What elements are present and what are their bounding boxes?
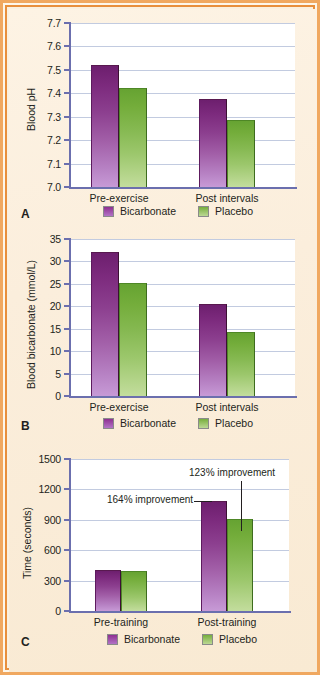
legend-label-bicarbonate: Bicarbonate	[124, 633, 180, 645]
legend-item-bicarbonate[interactable]: Bicarbonate	[103, 205, 176, 217]
y-tick-label: 5	[37, 368, 61, 380]
y-axis-a	[69, 22, 71, 189]
bar-bicarbonate-pre-training[interactable]	[95, 570, 121, 611]
bar-placebo-pre-exercise[interactable]	[119, 283, 147, 396]
y-tick-label: 0	[29, 605, 61, 617]
y-tick	[64, 458, 69, 460]
y-tick-label: 0	[37, 390, 61, 402]
y-tick	[64, 328, 69, 330]
y-tick-label: 7.4	[35, 87, 61, 99]
legend-a: Bicarbonate Placebo	[103, 205, 253, 217]
y-tick-label: 900	[29, 514, 61, 526]
y-tick-label: 600	[29, 544, 61, 556]
bar-placebo-pre-training[interactable]	[121, 571, 147, 611]
legend-label-placebo: Placebo	[215, 205, 253, 217]
bar-placebo-post-intervals[interactable]	[227, 332, 255, 396]
y-tick-label: 7.0	[35, 181, 61, 193]
legend-label-bicarbonate: Bicarbonate	[120, 205, 176, 217]
chart-panel-c: 1500 1200 900 600 300 0 Time (seconds) 1…	[3, 445, 320, 673]
y-tick-label: 20	[37, 300, 61, 312]
gridline	[71, 489, 289, 490]
legend-item-placebo[interactable]: Placebo	[198, 205, 253, 217]
legend-item-placebo[interactable]: Placebo	[198, 417, 253, 429]
legend-swatch-icon-bicarbonate	[103, 206, 114, 217]
bar-bicarbonate-post-intervals[interactable]	[199, 99, 227, 187]
legend-swatch-icon-placebo	[198, 418, 209, 429]
legend-label-placebo: Placebo	[215, 417, 253, 429]
gridline	[71, 23, 295, 24]
gridline	[71, 239, 295, 240]
gridline	[71, 550, 289, 551]
y-tick	[64, 395, 69, 397]
y-tick	[64, 519, 69, 521]
x-axis-b	[69, 396, 297, 398]
x-tick-label: Pre-exercise	[79, 401, 159, 413]
y-tick-label: 7.1	[35, 158, 61, 170]
gridline	[71, 459, 289, 460]
x-tick-label: Pre-training	[81, 616, 161, 628]
gridline	[71, 46, 295, 47]
y-axis-c	[69, 458, 71, 613]
y-tick-label: 300	[29, 575, 61, 587]
gridline	[71, 520, 289, 521]
bar-bicarbonate-post-training[interactable]	[201, 501, 227, 611]
bar-bicarbonate-post-intervals[interactable]	[199, 304, 227, 396]
bar-bicarbonate-pre-exercise[interactable]	[91, 65, 119, 187]
y-tick-label: 7.5	[35, 64, 61, 76]
y-axis-label-b: Blood bicarbonate (mmol/L)	[25, 260, 37, 389]
panel-letter-b: B	[21, 419, 30, 433]
bar-placebo-post-training[interactable]	[227, 519, 253, 611]
x-tick-label: Pre-exercise	[79, 192, 159, 204]
y-tick-label: 7.3	[35, 111, 61, 123]
y-tick-label: 1500	[29, 453, 61, 465]
x-tick-label: Post intervals	[187, 401, 267, 413]
x-tick-label: Post-training	[187, 616, 267, 628]
y-axis-label-a: Blood pH	[25, 88, 37, 131]
annotation-leader-line	[241, 481, 242, 531]
legend-swatch-icon-placebo	[198, 206, 209, 217]
y-tick	[64, 238, 69, 240]
y-tick	[64, 163, 69, 165]
legend-swatch-icon-placebo	[202, 634, 213, 645]
legend-item-bicarbonate[interactable]: Bicarbonate	[103, 417, 176, 429]
y-tick	[64, 373, 69, 375]
panel-letter-a: A	[21, 207, 30, 221]
y-tick	[64, 283, 69, 285]
y-tick	[64, 260, 69, 262]
legend-label-placebo: Placebo	[219, 633, 257, 645]
y-tick-label: 7.7	[35, 17, 61, 29]
y-tick-label: 7.2	[35, 134, 61, 146]
chart-panel-a: 7.7 7.6 7.5 7.4 7.3 7.2 7.1 7.0 Blood pH…	[3, 9, 320, 223]
y-tick-label: 35	[37, 233, 61, 245]
y-tick-label: 15	[37, 323, 61, 335]
y-tick-label: 25	[37, 278, 61, 290]
legend-swatch-icon-bicarbonate	[107, 634, 118, 645]
x-axis-c	[69, 611, 291, 613]
y-tick	[64, 488, 69, 490]
y-tick-label: 1200	[29, 483, 61, 495]
legend-item-bicarbonate[interactable]: Bicarbonate	[107, 633, 180, 645]
y-tick-label: 10	[37, 345, 61, 357]
y-tick-label: 7.6	[35, 40, 61, 52]
legend-item-placebo[interactable]: Placebo	[202, 633, 257, 645]
bar-bicarbonate-pre-exercise[interactable]	[91, 252, 119, 396]
legend-b: Bicarbonate Placebo	[103, 417, 253, 429]
annotation-123-improvement: 123% improvement	[189, 467, 275, 478]
y-axis-label-c: Time (seconds)	[21, 507, 33, 579]
x-axis-a	[69, 187, 297, 189]
legend-label-bicarbonate: Bicarbonate	[120, 417, 176, 429]
y-tick	[64, 139, 69, 141]
y-tick	[64, 22, 69, 24]
bar-placebo-pre-exercise[interactable]	[119, 88, 147, 187]
y-tick	[64, 350, 69, 352]
y-tick-label: 30	[37, 255, 61, 267]
panel-letter-c: C	[21, 635, 30, 649]
legend-swatch-icon-bicarbonate	[103, 418, 114, 429]
legend-c: Bicarbonate Placebo	[107, 633, 257, 645]
y-tick	[64, 45, 69, 47]
bar-placebo-post-intervals[interactable]	[227, 120, 255, 187]
y-tick	[64, 69, 69, 71]
y-tick	[64, 116, 69, 118]
x-tick-label: Post intervals	[187, 192, 267, 204]
y-tick	[64, 305, 69, 307]
